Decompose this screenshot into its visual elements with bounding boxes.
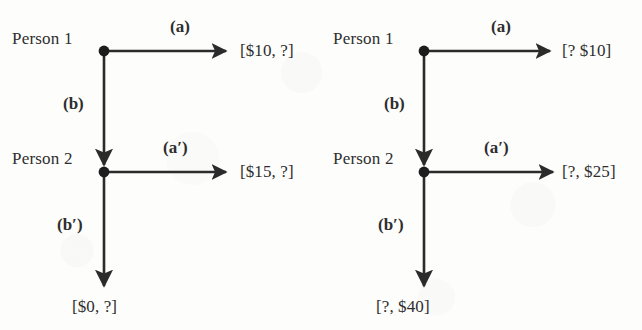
player-label-person1: Person 1 xyxy=(333,30,394,47)
edge-label-b: (b) xyxy=(63,95,84,112)
player-label-person2: Person 2 xyxy=(12,150,73,167)
edge-label-a: (a) xyxy=(491,18,511,35)
player-label-person2: Person 2 xyxy=(333,150,394,167)
game-tree-right: Person 1 Person 2 (a) (b) (a′) (b′) [? $… xyxy=(321,0,642,330)
payoff-label-a-prime: [?, $25] xyxy=(562,163,616,180)
decision-node-person1[interactable] xyxy=(99,46,110,57)
decision-node-person2[interactable] xyxy=(99,167,110,178)
edge-label-a-prime: (a′) xyxy=(484,139,509,156)
player-label-person1: Person 1 xyxy=(12,30,73,47)
payoff-label-a: [? $10] xyxy=(562,42,611,59)
edge-label-b-prime: (b′) xyxy=(57,216,83,233)
edge-label-b-prime: (b′) xyxy=(378,216,404,233)
edge-label-b: (b) xyxy=(384,95,405,112)
figure-canvas: Person 1 Person 2 (a) (b) (a′) (b′) [$10… xyxy=(0,0,642,330)
decision-node-person1[interactable] xyxy=(419,46,430,57)
payoff-label-a: [$10, ?] xyxy=(240,42,294,59)
edge-label-a: (a) xyxy=(170,18,190,35)
payoff-label-b-prime: [$0, ?] xyxy=(72,298,117,315)
payoff-label-b-prime: [?, $40] xyxy=(376,298,430,315)
edge-label-a-prime: (a′) xyxy=(163,139,188,156)
decision-node-person2[interactable] xyxy=(419,167,430,178)
payoff-label-a-prime: [$15, ?] xyxy=(240,163,294,180)
game-tree-left: Person 1 Person 2 (a) (b) (a′) (b′) [$10… xyxy=(0,0,321,330)
